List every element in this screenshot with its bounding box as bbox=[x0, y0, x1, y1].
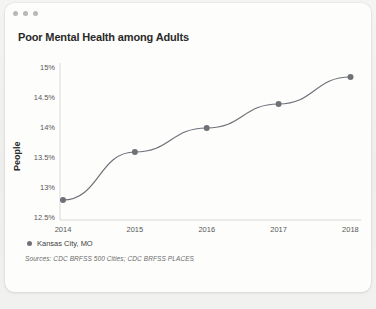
y-tick-label: 14.5% bbox=[11, 93, 55, 102]
x-tick-label: 2017 bbox=[270, 225, 287, 234]
sources-note: Sources: CDC BRFSS 500 Cities; CDC BRFSS… bbox=[25, 255, 194, 262]
legend-item-label: Kansas City, MO bbox=[37, 239, 93, 248]
data-line-0 bbox=[63, 77, 351, 200]
chart-plot-area: People 12.5%13%13.5%14%14.5%15% 20142015… bbox=[5, 3, 371, 292]
chart-legend[interactable]: Kansas City, MO bbox=[27, 239, 93, 248]
chart-card: Poor Mental Health among Adults People 1… bbox=[5, 3, 371, 292]
line-chart-svg bbox=[5, 3, 371, 292]
y-tick-label: 15% bbox=[11, 63, 55, 72]
data-point-marker[interactable] bbox=[348, 74, 354, 80]
data-point-marker[interactable] bbox=[132, 149, 138, 155]
x-tick-label: 2015 bbox=[127, 225, 144, 234]
y-tick-label: 12.5% bbox=[11, 213, 55, 222]
x-tick-label: 2018 bbox=[342, 225, 359, 234]
x-tick-label: 2016 bbox=[198, 225, 215, 234]
y-tick-label: 13% bbox=[11, 183, 55, 192]
data-point-marker[interactable] bbox=[60, 197, 66, 203]
legend-marker-icon bbox=[27, 241, 32, 246]
y-axis-ticks: 12.5%13%13.5%14%14.5%15% bbox=[7, 3, 55, 292]
data-point-marker[interactable] bbox=[204, 125, 210, 131]
data-point-marker[interactable] bbox=[276, 101, 282, 107]
y-tick-label: 14% bbox=[11, 123, 55, 132]
x-tick-label: 2014 bbox=[55, 225, 72, 234]
y-tick-label: 13.5% bbox=[11, 153, 55, 162]
